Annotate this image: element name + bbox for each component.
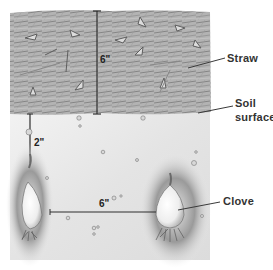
diagram-illustration <box>0 0 273 270</box>
clove-label: Clove <box>223 195 254 208</box>
straw-depth-label: 6" <box>100 54 110 65</box>
planting-depth-label: 2" <box>34 137 44 148</box>
clove-spacing-label: 6" <box>99 198 109 209</box>
garlic-planting-diagram: 6" 2" 6" Straw Soil surface Clove <box>0 0 273 270</box>
straw-layer <box>10 10 211 115</box>
straw-label: Straw <box>227 52 258 65</box>
soil-surface-label-line1: Soil <box>235 97 256 110</box>
soil-surface-label-line2: surface <box>235 111 273 124</box>
